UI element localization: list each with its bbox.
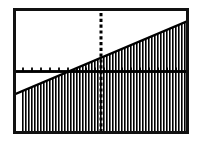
- plot-area[interactable]: [16, 11, 186, 131]
- calculator-screen-bezel: [13, 8, 189, 134]
- screenshot-root: [0, 0, 202, 146]
- linear-inequality-graph: [16, 11, 186, 131]
